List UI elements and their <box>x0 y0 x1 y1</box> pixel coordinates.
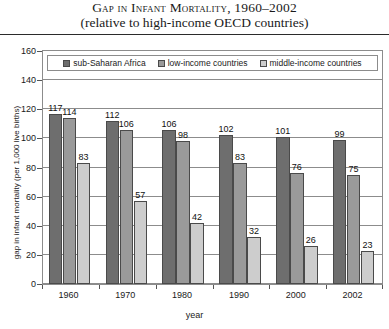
bar-value-label: 101 <box>271 126 295 136</box>
legend-item[interactable]: middle-income countries <box>260 58 362 68</box>
x-axis-tick-label: 1970 <box>115 290 135 300</box>
y-axis-tick-label: 40 <box>26 221 36 231</box>
bars-area: 1171148311210657106984210283321017626997… <box>43 51 382 284</box>
x-axis-tick-mark <box>156 285 157 289</box>
y-axis-tick-label: 140 <box>21 75 36 85</box>
x-axis-tick-label: 1960 <box>58 290 78 300</box>
bar[interactable] <box>49 114 63 284</box>
bar[interactable] <box>106 121 120 284</box>
bar[interactable] <box>63 118 77 284</box>
bar-value-label: 42 <box>185 212 209 222</box>
legend-swatch-icon <box>63 60 70 67</box>
x-axis-tick-mark <box>326 285 327 289</box>
x-axis: 196019701980199020002002 <box>42 285 383 307</box>
x-axis-tick-mark <box>213 285 214 289</box>
legend-swatch-icon <box>158 60 165 67</box>
bar[interactable] <box>233 163 247 284</box>
bar-value-label: 106 <box>157 119 181 129</box>
bar[interactable] <box>333 140 347 284</box>
bar-value-label: 98 <box>171 130 195 140</box>
bar-value-label: 106 <box>115 119 139 129</box>
bar[interactable] <box>162 130 176 284</box>
bar-value-label: 99 <box>328 129 352 139</box>
chart-subtitle: (relative to high-income OECD countries) <box>0 15 389 31</box>
y-axis-tick-label: 20 <box>26 250 36 260</box>
bar-group: 1069842 <box>162 51 204 284</box>
bar[interactable] <box>120 130 134 284</box>
legend-label: middle-income countries <box>270 58 362 68</box>
y-axis-tick-label: 0 <box>31 279 36 289</box>
y-axis-tick-label: 120 <box>21 104 36 114</box>
plot-area: 1171148311210657106984210283321017626997… <box>42 50 383 285</box>
bar-value-label: 75 <box>342 164 366 174</box>
legend-item[interactable]: low-income countries <box>158 58 248 68</box>
legend-item[interactable]: sub-Saharan Africa <box>63 58 145 68</box>
bar-value-label: 32 <box>242 226 266 236</box>
bar[interactable] <box>247 237 261 284</box>
x-axis-tick-mark <box>99 285 100 289</box>
bar-value-label: 23 <box>356 240 380 250</box>
bar[interactable] <box>304 246 318 284</box>
chart-page: Gap in Infant Mortality, 1960–2002 (rela… <box>0 0 389 329</box>
legend-label: low-income countries <box>168 58 248 68</box>
x-axis-tick-label: 1990 <box>229 290 249 300</box>
x-axis-title: year <box>0 310 389 320</box>
y-axis-tick-label: 80 <box>26 163 36 173</box>
bar-group: 1028332 <box>219 51 261 284</box>
title-divider <box>0 34 389 35</box>
bar-value-label: 83 <box>228 152 252 162</box>
bar-value-label: 57 <box>129 190 153 200</box>
bar[interactable] <box>347 175 361 284</box>
bar-group: 11711483 <box>49 51 91 284</box>
bar[interactable] <box>276 137 290 284</box>
y-axis-tick-label: 100 <box>21 133 36 143</box>
y-axis-tick-label: 160 <box>21 46 36 56</box>
bar[interactable] <box>134 201 148 284</box>
x-axis-tick-mark <box>42 285 43 289</box>
bar-value-label: 114 <box>58 107 82 117</box>
bar-value-label: 76 <box>285 162 309 172</box>
chart-title: Gap in Infant Mortality, 1960–2002 <box>0 0 389 15</box>
y-axis: 020406080100120140160 <box>0 50 42 285</box>
bar-value-label: 102 <box>214 124 238 134</box>
bar[interactable] <box>77 163 91 284</box>
x-axis-tick-mark <box>382 285 383 289</box>
legend: sub-Saharan Africalow-income countriesmi… <box>47 55 378 71</box>
x-axis-tick-label: 2002 <box>343 290 363 300</box>
y-axis-tick-label: 60 <box>26 192 36 202</box>
legend-swatch-icon <box>260 60 267 67</box>
bar-value-label: 26 <box>299 235 323 245</box>
bar-value-label: 83 <box>72 152 96 162</box>
bar-group: 997523 <box>333 51 375 284</box>
x-axis-tick-mark <box>269 285 270 289</box>
bar-group: 1017626 <box>276 51 318 284</box>
x-axis-tick-label: 1980 <box>172 290 192 300</box>
x-axis-tick-label: 2000 <box>286 290 306 300</box>
bar[interactable] <box>361 251 375 284</box>
title-block: Gap in Infant Mortality, 1960–2002 (rela… <box>0 0 389 31</box>
bar-group: 11210657 <box>106 51 148 284</box>
bar[interactable] <box>190 223 204 284</box>
bar[interactable] <box>290 173 304 284</box>
legend-label: sub-Saharan Africa <box>73 58 145 68</box>
